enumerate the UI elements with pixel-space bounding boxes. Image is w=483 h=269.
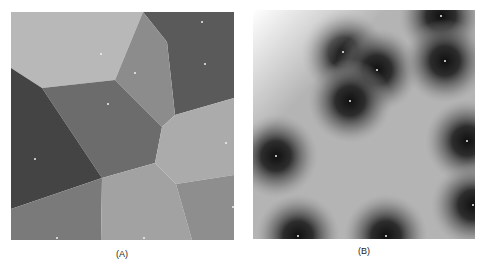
seed-point: [225, 142, 227, 144]
corner-highlight: [253, 10, 475, 239]
seed-point: [201, 21, 203, 23]
seed-point: [204, 63, 206, 65]
seed-point: [34, 158, 36, 160]
seed-point: [143, 237, 145, 239]
distance-transform-panel: [253, 10, 475, 239]
seed-point: [342, 51, 344, 53]
seed-point: [349, 100, 351, 102]
seed-point: [440, 15, 442, 17]
voronoi-diagram: [11, 12, 234, 240]
seed-point: [134, 72, 136, 74]
seed-point: [385, 235, 387, 237]
distance-transform-map: [253, 10, 475, 239]
seed-point: [100, 53, 102, 55]
voronoi-diagram-panel: [11, 12, 234, 240]
seed-point: [232, 206, 234, 208]
seed-point: [376, 69, 378, 71]
seed-point: [275, 155, 277, 157]
seed-point: [56, 237, 58, 239]
seed-point: [466, 140, 468, 142]
panel-b-caption: (B): [349, 246, 379, 256]
seed-point: [297, 235, 299, 237]
panel-a-caption: (A): [107, 249, 137, 259]
seed-point: [107, 103, 109, 105]
seed-point: [472, 204, 474, 206]
seed-point: [444, 60, 446, 62]
